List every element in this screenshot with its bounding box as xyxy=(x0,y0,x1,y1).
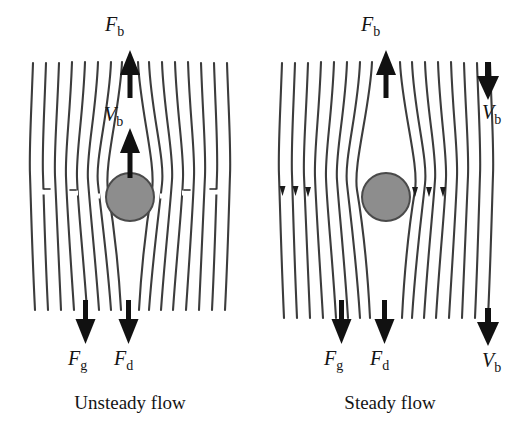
label-buoyancy-force: Fb xyxy=(105,14,124,39)
velocity-arrow-down-bottom xyxy=(477,308,499,346)
caption-steady-flow: Steady flow xyxy=(260,392,520,414)
drag-arrow-down xyxy=(375,300,395,344)
bubble-sphere xyxy=(362,173,410,221)
panel-steady-flow: Fb Vb Fg Fd Vb Steady flow xyxy=(260,0,520,436)
flow-diagram-figure: Fb Vb Fg Fd Unsteady flow xyxy=(0,0,520,436)
label-bubble-velocity-bottom: Vb xyxy=(482,350,501,375)
caption-unsteady-flow: Unsteady flow xyxy=(0,392,260,414)
bubble-sphere xyxy=(106,173,154,221)
label-drag-force: Fd xyxy=(370,348,389,373)
label-drag-force: Fd xyxy=(114,348,133,373)
label-gravity-force: Fg xyxy=(68,348,87,373)
steady-flow-streamline-canvas xyxy=(260,0,520,436)
label-bubble-velocity: Vb xyxy=(104,104,123,129)
velocity-arrow-up xyxy=(120,128,140,178)
streamlines-left-side xyxy=(279,62,372,318)
buoyancy-arrow-up xyxy=(376,50,396,98)
gravity-arrow-down xyxy=(76,300,96,344)
velocity-arrow-down-top xyxy=(477,62,499,100)
label-gravity-force: Fg xyxy=(324,348,343,373)
buoyancy-arrow-up xyxy=(120,50,140,98)
panel-unsteady-flow: Fb Vb Fg Fd Unsteady flow xyxy=(0,0,260,436)
label-bubble-velocity-top: Vb xyxy=(482,102,501,127)
label-buoyancy-force: Fb xyxy=(361,14,380,39)
